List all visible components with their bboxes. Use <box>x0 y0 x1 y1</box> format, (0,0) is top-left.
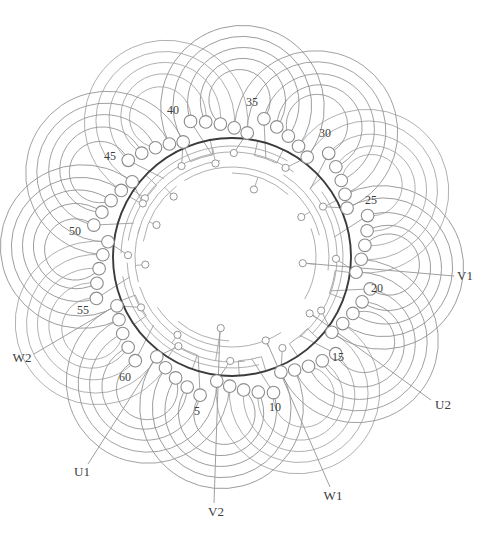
slot-circle <box>316 355 329 368</box>
slot-circle <box>301 151 314 164</box>
lead-in-node <box>332 255 339 262</box>
slot-circle <box>88 219 101 232</box>
lead-in-node <box>318 307 325 314</box>
terminal-label-U1: U1 <box>74 464 90 479</box>
slot-label-55: 55 <box>77 303 89 317</box>
slot-circle <box>149 141 162 154</box>
slot-label-35: 35 <box>246 95 258 109</box>
slot-circle <box>96 206 109 219</box>
coil-loop <box>234 51 398 208</box>
slot-circle <box>150 351 163 364</box>
coil-loop <box>322 302 404 387</box>
slot-circle <box>159 361 172 374</box>
jumper-rail <box>184 167 319 235</box>
lead-in-node <box>282 164 289 171</box>
slot-circle <box>361 224 374 237</box>
slot-circle <box>135 147 148 160</box>
slot-circle <box>184 115 197 128</box>
slot-circle <box>275 366 288 379</box>
terminal-leader-W2 <box>34 311 107 354</box>
slot-circle <box>302 360 315 373</box>
coil-loop <box>102 347 187 429</box>
slot-circle <box>339 188 352 201</box>
slot-circle <box>350 266 363 279</box>
lead-in-node <box>175 343 182 350</box>
slot-circle <box>91 277 104 290</box>
slot-label-50: 50 <box>69 224 81 238</box>
slot-circle <box>163 138 176 151</box>
lead-in-node <box>178 162 185 169</box>
slot-label-20: 20 <box>371 281 383 295</box>
jumper-node <box>250 186 257 193</box>
slot-circle <box>335 174 348 187</box>
slot-circle <box>116 327 129 340</box>
slot-circle <box>111 300 124 313</box>
slot-circle <box>355 253 368 266</box>
terminal-leader-V1 <box>303 263 454 276</box>
slot-circle <box>115 184 128 197</box>
jumper-node <box>298 213 305 220</box>
slot-circle <box>177 136 190 149</box>
jumper-rail <box>135 227 140 282</box>
coil-loops <box>0 25 463 488</box>
slot-label-45: 45 <box>104 149 116 163</box>
jumper-node <box>299 260 306 267</box>
slot-circle <box>129 354 142 367</box>
slot-circle <box>102 235 115 248</box>
slot-circle <box>322 147 335 160</box>
slot-label-10: 10 <box>269 400 281 414</box>
slot-circle <box>361 209 374 222</box>
lead-in-node <box>137 304 144 311</box>
lead-in-node <box>124 252 131 259</box>
slot-circle <box>347 307 360 320</box>
slot-circle <box>288 364 301 377</box>
slot-label-60: 60 <box>119 370 131 384</box>
lead-in-node <box>139 200 146 207</box>
slot-circle <box>214 118 227 131</box>
slot-label-40: 40 <box>167 103 179 117</box>
jumper-node <box>174 331 181 338</box>
slot-label-15: 15 <box>332 350 344 364</box>
slot-circle <box>228 122 241 135</box>
slot-circle <box>359 239 372 252</box>
terminal-label-W2: W2 <box>13 350 32 365</box>
winding-diagram: 51015202530354045505560U1V2W1U2V1W2 <box>0 0 495 544</box>
coil-loop <box>60 127 142 212</box>
jumper-rail <box>128 152 293 241</box>
slot-circle <box>282 130 295 143</box>
slot-circle <box>169 372 182 385</box>
jumper-rail <box>299 208 337 338</box>
coil-loop <box>281 259 438 423</box>
jumper-node <box>153 221 160 228</box>
slot-circle <box>341 202 354 215</box>
slot-label-25: 25 <box>365 193 377 207</box>
slot-circle <box>223 380 236 393</box>
slot-circle <box>113 313 126 326</box>
terminal-label-V1: V1 <box>457 268 473 283</box>
slot-circle <box>330 160 343 173</box>
winding-diagram-svg: 51015202530354045505560U1V2W1U2V1W2 <box>0 0 495 544</box>
slot-circle <box>258 113 271 126</box>
slot-circle <box>237 384 250 397</box>
lead-in-node <box>279 344 286 351</box>
lead-in-node <box>227 357 234 364</box>
jumper-node <box>212 160 219 167</box>
jumper-node <box>306 310 313 317</box>
inner-rails <box>121 146 343 368</box>
jumper-node <box>217 325 224 332</box>
slot-circle <box>105 194 118 207</box>
jumper-node <box>170 193 177 200</box>
slot-circle <box>122 154 135 167</box>
slot-circle <box>126 175 139 188</box>
slot-circle <box>292 140 305 153</box>
slot-circle <box>267 386 280 399</box>
jumper-node <box>262 337 269 344</box>
slot-circle <box>326 326 339 339</box>
lead-in-node <box>230 149 237 156</box>
slot-circle <box>93 262 106 275</box>
slot-circle <box>356 296 369 309</box>
slot-circle <box>194 389 207 402</box>
slot-circle <box>210 375 223 388</box>
jumper-rail <box>123 276 259 368</box>
terminal-label-W1: W1 <box>324 488 343 503</box>
